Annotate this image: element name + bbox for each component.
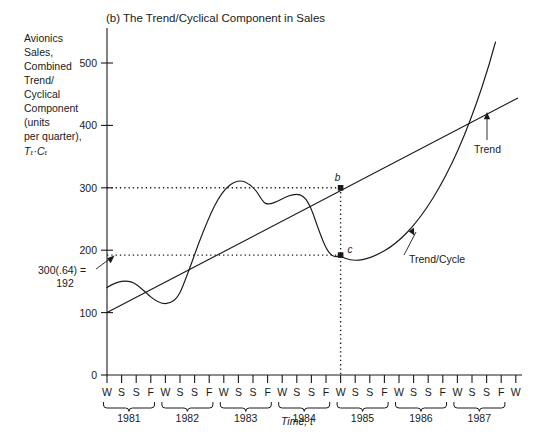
ratio-note-line-1: 300(.64) = (38, 264, 86, 276)
y-tick-label-200: 200 (79, 244, 97, 256)
y-axis-label-line-7: (units (24, 116, 50, 128)
year-label-1983: 1983 (234, 412, 258, 424)
year-label-1981: 1981 (117, 412, 141, 424)
x-tick-label-5: S (176, 386, 183, 398)
x-tick-label-24: W (452, 386, 462, 398)
y-axis-label: Avionics Sales, Combined Trend/ Cyclical… (24, 32, 82, 157)
x-tick-label-17: S (352, 386, 359, 398)
year-label-1985: 1985 (351, 412, 375, 424)
x-tick-label-23: F (440, 386, 446, 398)
x-tick-label-15: F (323, 386, 329, 398)
x-tick-label-27: F (498, 386, 504, 398)
y-axis-label-line-2: Sales, (24, 46, 53, 58)
y-axis-label-line-6: Component (24, 102, 78, 114)
y-axis-ticks: 0 100 200 300 400 500 (79, 57, 113, 381)
y-axis-label-line-5: Cyclical (24, 88, 60, 100)
y-tick-label-0: 0 (91, 369, 97, 381)
x-tick-label-3: F (148, 386, 154, 398)
chart-title: (b) The Trend/Cyclical Component in Sale… (106, 12, 325, 24)
trend-cycle-annotation-leader (404, 232, 416, 255)
trend-cyclical-component-chart: (b) The Trend/Cyclical Component in Sale… (0, 0, 535, 439)
x-tick-label-22: S (425, 386, 432, 398)
y-axis-label-line-8: per quarter), (24, 130, 82, 142)
year-label-1987: 1987 (468, 412, 492, 424)
x-axis-quarter-labels: W S S F W S S F W S S F W S S F W S S F … (102, 386, 521, 398)
series-trend-line (107, 98, 518, 313)
trend-cycle-annotation-label: Trend/Cycle (409, 253, 465, 265)
year-brace-1985 (337, 402, 388, 411)
x-tick-label-1: S (118, 386, 125, 398)
x-tick-label-19: F (381, 386, 387, 398)
x-tick-label-4: W (160, 386, 170, 398)
year-label-1982: 1982 (176, 412, 200, 424)
x-tick-label-28: W (511, 386, 521, 398)
year-brace-1986 (396, 402, 447, 411)
point-c-marker (338, 252, 344, 258)
y-tick-label-100: 100 (79, 307, 97, 319)
point-c-label: c (348, 244, 353, 255)
x-tick-label-21: S (410, 386, 417, 398)
y-axis-label-line-3: Combined (24, 60, 72, 72)
x-tick-label-25: S (468, 386, 475, 398)
x-axis-ticks (107, 375, 516, 383)
x-tick-label-9: S (235, 386, 242, 398)
x-axis-label: Time, t (281, 415, 314, 427)
x-tick-label-2: S (133, 386, 140, 398)
trend-annotation-label: Trend (474, 143, 501, 155)
x-tick-label-6: S (191, 386, 198, 398)
trend-cycle-arrowhead-icon (409, 228, 415, 236)
x-tick-label-8: W (219, 386, 229, 398)
x-tick-label-11: F (264, 386, 270, 398)
x-tick-label-7: F (206, 386, 212, 398)
y-axis-label-line-4: Trend/ (24, 74, 54, 86)
x-tick-label-26: S (483, 386, 490, 398)
x-tick-label-12: W (277, 386, 287, 398)
x-tick-label-18: S (366, 386, 373, 398)
figure-container: (b) The Trend/Cyclical Component in Sale… (0, 0, 535, 439)
x-tick-label-14: S (308, 386, 315, 398)
ratio-note-arrowhead-icon (107, 255, 114, 263)
year-label-1986: 1986 (409, 412, 433, 424)
year-brace-1982 (162, 402, 213, 411)
trend-cycle-annotation: Trend/Cycle (404, 228, 465, 266)
year-brace-1981 (104, 402, 155, 411)
y-tick-label-300: 300 (79, 182, 97, 194)
point-b-marker (338, 185, 344, 191)
x-tick-label-20: W (394, 386, 404, 398)
x-tick-label-10: S (249, 386, 256, 398)
y-tick-label-500: 500 (79, 57, 97, 69)
year-brace-1983 (220, 402, 271, 411)
ratio-note-line-2: 192 (56, 277, 74, 289)
y-tick-label-400: 400 (79, 119, 97, 131)
y-axis-label-line-1: Avionics (24, 32, 63, 44)
y-axis-label-symbol: Tₜ·Cₜ (24, 145, 48, 157)
ratio-note: 300(.64) = 192 (38, 255, 115, 289)
year-brace-1984 (279, 402, 330, 411)
x-tick-label-13: S (293, 386, 300, 398)
x-tick-label-0: W (102, 386, 112, 398)
year-brace-1987 (454, 402, 505, 411)
point-b-label: b (335, 172, 341, 183)
x-tick-label-16: W (336, 386, 346, 398)
